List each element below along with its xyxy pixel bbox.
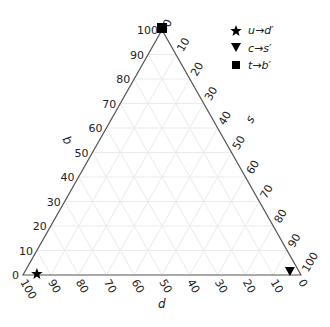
tick-label-s: 20 bbox=[188, 60, 206, 79]
tick-label-d: 70 bbox=[101, 277, 119, 296]
tick-label-b: 90 bbox=[130, 49, 144, 62]
tick-label-s: 90 bbox=[285, 231, 303, 250]
star-icon bbox=[230, 25, 241, 36]
tick-label-d: 60 bbox=[129, 277, 147, 296]
ternary-chart: 0102030405060708090100010203040506070809… bbox=[0, 0, 330, 327]
tick-label-b: 10 bbox=[19, 245, 33, 258]
legend-item-t-b: t→b′ bbox=[232, 59, 272, 72]
tick-label-s: 30 bbox=[202, 84, 220, 103]
tick-label-b: 50 bbox=[75, 147, 89, 160]
tick-label-b: 0 bbox=[12, 269, 19, 282]
tick-label-b: 60 bbox=[88, 122, 102, 135]
tick-label-b: 20 bbox=[33, 220, 47, 233]
tick-label-s: 80 bbox=[272, 207, 290, 226]
tick-label-d: 20 bbox=[240, 277, 258, 296]
tick-labels: 0102030405060708090100010203040506070809… bbox=[12, 17, 321, 302]
tick-label-d: 40 bbox=[184, 277, 202, 296]
tick-label-d: 100 bbox=[17, 277, 39, 302]
tick-label-s: 50 bbox=[230, 133, 248, 152]
tick-label-b: 80 bbox=[116, 73, 130, 86]
legend: u→d′ c→s′ t→b′ bbox=[230, 24, 274, 72]
tick-label-b: 100 bbox=[137, 24, 158, 37]
tick-label-d: 30 bbox=[212, 277, 230, 296]
tick-label-s: 70 bbox=[258, 182, 276, 201]
legend-label: c→s′ bbox=[248, 42, 272, 55]
star-marker bbox=[31, 268, 42, 279]
tick-label-d: 90 bbox=[45, 277, 63, 296]
tick-label-b: 30 bbox=[47, 196, 61, 209]
axis-title-b: b bbox=[59, 134, 75, 148]
square-marker bbox=[157, 23, 167, 33]
legend-item-c-s: c→s′ bbox=[231, 42, 272, 55]
tick-label-s: 10 bbox=[174, 35, 192, 54]
tick-label-d: 10 bbox=[268, 277, 286, 296]
axis-title-d: d bbox=[158, 297, 166, 311]
tick-label-s: 40 bbox=[216, 109, 234, 128]
legend-label: u→d′ bbox=[248, 24, 274, 37]
triangle-down-icon bbox=[231, 43, 241, 52]
tick-label-s: 100 bbox=[299, 250, 321, 275]
tick-label-d: 80 bbox=[73, 277, 91, 296]
tick-label-d: 50 bbox=[156, 277, 174, 296]
legend-label: t→b′ bbox=[248, 59, 272, 72]
legend-item-u-d: u→d′ bbox=[230, 24, 274, 37]
tick-label-s: 60 bbox=[244, 158, 262, 177]
tick-label-d: 0 bbox=[295, 277, 310, 290]
tick-label-b: 70 bbox=[102, 98, 116, 111]
square-icon bbox=[232, 61, 240, 69]
axis-title-s: s bbox=[242, 113, 257, 125]
tick-label-b: 40 bbox=[61, 171, 75, 184]
